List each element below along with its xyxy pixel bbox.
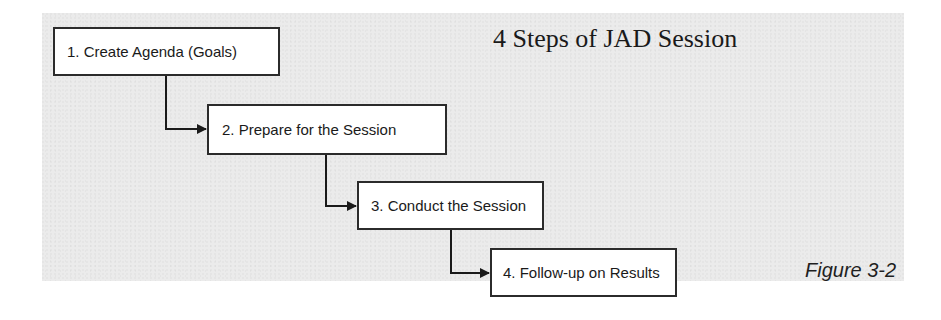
step-box-3: 3. Conduct the Session (357, 181, 544, 230)
connector-3-4 (451, 229, 489, 273)
connector-1-2 (166, 75, 206, 129)
step-label: 2. Prepare for the Session (222, 121, 396, 138)
connector-2-3 (326, 154, 356, 206)
step-label: 4. Follow-up on Results (503, 264, 660, 281)
step-box-2: 2. Prepare for the Session (207, 104, 447, 155)
step-box-1: 1. Create Agenda (Goals) (53, 27, 280, 76)
step-box-4: 4. Follow-up on Results (490, 248, 677, 297)
step-label: 3. Conduct the Session (371, 197, 526, 214)
step-label: 1. Create Agenda (Goals) (67, 43, 237, 60)
figure-caption: Figure 3-2 (805, 259, 896, 282)
